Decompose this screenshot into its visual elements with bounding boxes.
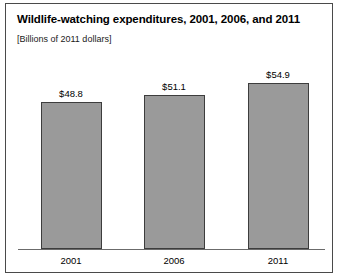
bar-2006 [144, 95, 205, 249]
bar-value-label-2001: $48.8 [41, 88, 101, 99]
bar-2011 [248, 83, 309, 249]
plot-area: $48.8 $51.1 $54.9 2001 2006 2011 [0, 0, 341, 278]
x-tick-label-2001: 2001 [41, 255, 101, 266]
bar-value-label-2006: $51.1 [144, 81, 204, 92]
bar-value-label-2011: $54.9 [248, 69, 308, 80]
x-tick-label-2011: 2011 [248, 255, 308, 266]
x-axis-baseline [18, 249, 325, 250]
bar-2001 [41, 102, 102, 249]
x-tick-label-2006: 2006 [144, 255, 204, 266]
chart-figure: Wildlife-watching expenditures, 2001, 20… [0, 0, 341, 278]
